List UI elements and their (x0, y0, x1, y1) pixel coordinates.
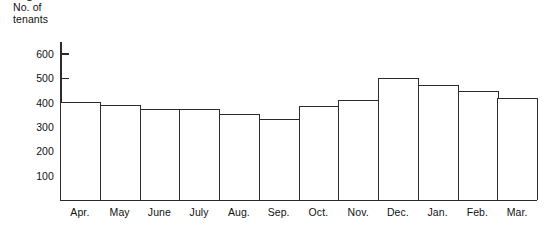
x-axis-tick-label: Mar. (497, 206, 537, 218)
y-axis-tick-label: 100 (8, 171, 54, 182)
bar-chart: No. of tenants 100200300400500600 Apr.Ma… (0, 0, 546, 232)
y-axis-caption-line1: No. of (13, 1, 42, 13)
x-axis-tick-label: Sep. (259, 206, 299, 218)
x-axis-tick-label: Nov. (338, 206, 378, 218)
bar (418, 85, 459, 200)
bar (338, 100, 379, 200)
x-axis-tick-label: Jan. (418, 206, 458, 218)
bar (259, 119, 300, 200)
y-axis-tick-label: 500 (8, 73, 54, 84)
bar (458, 91, 499, 200)
bar (219, 114, 260, 200)
plot-area (60, 42, 537, 200)
x-axis-tick-label: Dec. (378, 206, 418, 218)
bar (497, 98, 538, 200)
bar (100, 105, 141, 200)
y-axis-tick-label: 400 (8, 98, 54, 109)
x-axis-tick-label: June (140, 206, 180, 218)
bar (60, 102, 101, 200)
x-axis-tick-label: Feb. (458, 206, 498, 218)
y-axis-tick-label: 200 (8, 146, 54, 157)
bar (179, 109, 220, 200)
x-axis-tick-label: Aug. (219, 206, 259, 218)
x-axis-tick-label: Oct. (299, 206, 339, 218)
y-axis-caption-line2: tenants (13, 13, 48, 25)
y-axis-tick-label: 600 (8, 49, 54, 60)
x-axis-tick-label: Apr. (60, 206, 100, 218)
bar (140, 109, 181, 200)
x-axis-tick-label: May (100, 206, 140, 218)
bar (378, 78, 419, 200)
x-axis-tick-label: July (179, 206, 219, 218)
y-axis-caption: No. of tenants (13, 2, 48, 25)
y-axis-tick-label: 300 (8, 122, 54, 133)
bar (299, 106, 340, 200)
